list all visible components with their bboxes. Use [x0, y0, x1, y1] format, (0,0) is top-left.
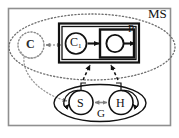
- label-p: P: [128, 22, 134, 34]
- label-ms: MS: [148, 6, 167, 22]
- label-h: H: [116, 96, 125, 111]
- label-c: C: [26, 37, 35, 52]
- label-c1-base: C: [70, 35, 78, 49]
- label-s: S: [77, 96, 84, 111]
- diagram-canvas: MS P C C1 S H G: [0, 0, 179, 138]
- process-circle: [106, 35, 123, 52]
- edge-g-to-p-right: [111, 65, 118, 80]
- label-c1: C1: [70, 36, 82, 50]
- label-g: G: [97, 107, 105, 119]
- label-c1-subscript: 1: [78, 42, 82, 50]
- edge-g-to-p-left: [83, 65, 90, 80]
